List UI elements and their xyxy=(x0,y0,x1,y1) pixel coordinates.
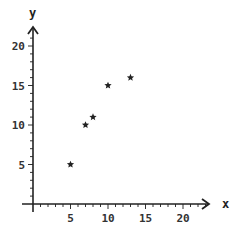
star-marker-icon xyxy=(104,82,111,89)
x-axis-label: x xyxy=(222,197,229,211)
x-tick-label: 15 xyxy=(139,212,152,225)
y-tick-label: 5 xyxy=(18,159,25,172)
y-tick-label: 10 xyxy=(12,119,25,132)
star-marker-icon xyxy=(67,161,74,168)
scatter-chart: x y 51015205101520 xyxy=(0,0,237,233)
x-tick-label: 5 xyxy=(67,212,74,225)
star-marker-icon xyxy=(82,121,89,128)
tick-labels: 51015205101520 xyxy=(12,40,190,225)
minor-ticks xyxy=(28,38,206,209)
y-axis-label: y xyxy=(29,6,36,20)
y-tick-label: 15 xyxy=(12,80,25,93)
data-points xyxy=(67,74,134,168)
star-marker-icon xyxy=(89,113,96,120)
y-tick-label: 20 xyxy=(12,40,25,53)
x-tick-label: 10 xyxy=(101,212,114,225)
x-tick-label: 20 xyxy=(176,212,189,225)
star-marker-icon xyxy=(127,74,134,81)
